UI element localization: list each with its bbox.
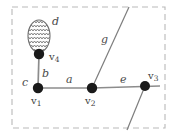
vertex-label-v2-text: v [85,95,91,106]
edge-label-e: e [120,74,127,85]
vertex-label-v2-sub: 2 [91,99,96,108]
edge-d-loop [28,20,50,52]
vertex-v4 [34,49,44,59]
vertex-label-v1-sub: 1 [37,99,42,108]
vertex-label-v3-text: v [148,70,154,81]
vertex-label-v3-sub: 3 [154,74,159,83]
vertex-label-v2: v2 [85,96,95,106]
edge-label-g: g [101,34,108,45]
vertex-v1 [33,83,43,93]
edge-label-c: c [22,77,28,88]
vertex-v2 [87,83,97,93]
vertex-label-v4-sub: 4 [55,55,60,64]
edge-label-a: a [66,74,73,85]
vertex-label-v4: v4 [49,52,59,62]
edge-v3-lower [127,86,145,130]
vertex-label-v4-text: v [49,51,55,62]
figure-canvas: a b c d e g v1 v2 v3 v4 [0,0,177,138]
vertex-label-v3: v3 [148,71,158,81]
graph-figure [0,0,177,138]
vertex-label-v1: v1 [31,96,41,106]
vertex-v3 [140,81,150,91]
vertex-label-v1-text: v [31,95,37,106]
edge-label-d: d [52,16,59,27]
edge-label-b: b [42,68,49,79]
